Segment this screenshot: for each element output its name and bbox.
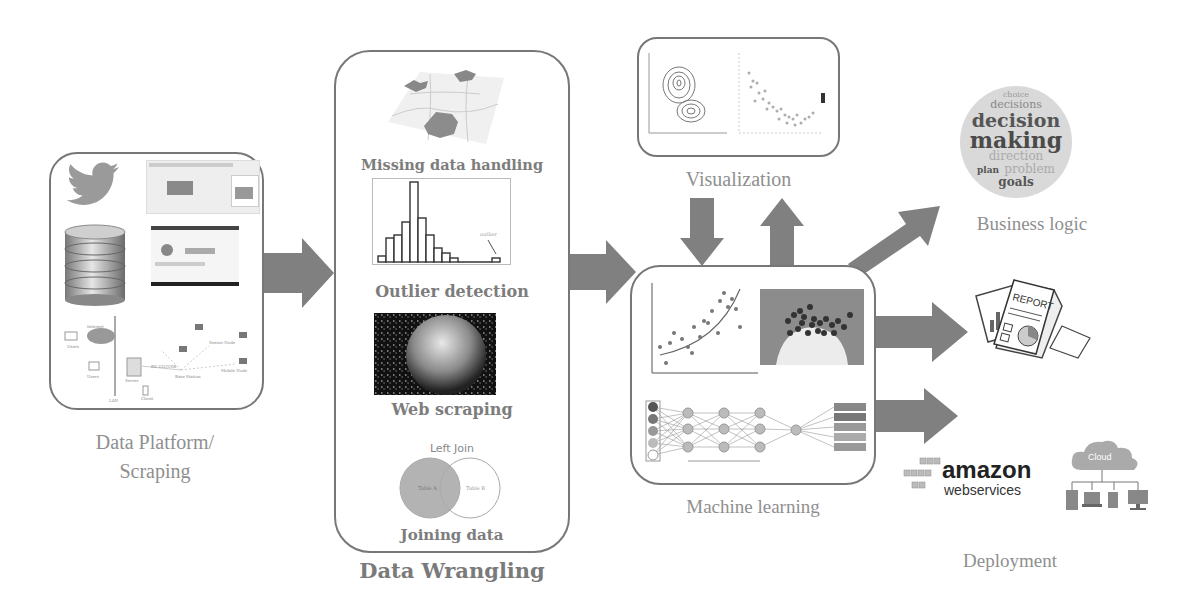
left-join-venn-diagram: Table A Table B xyxy=(396,456,508,522)
arrow-ml-to-viz xyxy=(760,198,804,266)
report-documents-icon: REPORT xyxy=(970,276,1098,360)
visualization-label: Visualization xyxy=(637,168,840,191)
arrow-wrangling-to-ml xyxy=(570,240,636,304)
report-screenshot xyxy=(151,226,239,286)
histogram-outlier-chart: outlier xyxy=(372,178,512,266)
visualization-panel xyxy=(637,37,840,157)
machine-learning-panel xyxy=(630,265,876,485)
contour-plot-chart xyxy=(647,53,727,137)
arrow-ml-to-deployment xyxy=(876,388,958,444)
data-platform-label-line2: Scraping xyxy=(50,457,260,486)
data-wrangling-title: Data Wrangling xyxy=(330,558,574,583)
svg-text:Table B: Table B xyxy=(466,485,485,491)
data-platform-label: Data Platform/ Scraping xyxy=(50,428,260,486)
twitter-bird-icon xyxy=(61,162,121,208)
web-scraping-label: Web scraping xyxy=(336,400,568,419)
outlier-detection-label: Outlier detection xyxy=(336,282,568,301)
svg-text:outlier: outlier xyxy=(480,231,497,237)
web-scraping-globe-image xyxy=(374,313,496,395)
aws-cubes-icon xyxy=(902,456,942,500)
svg-text:Server: Server xyxy=(125,378,139,383)
network-diagram: Users Internet Users LAN Server RS-232/U… xyxy=(59,316,255,402)
joining-data-label: Joining data xyxy=(336,526,568,544)
svg-text:Mobile Node: Mobile Node xyxy=(221,368,248,373)
arrow-ml-to-business-logic xyxy=(848,198,940,278)
data-platform-panel: Users Internet Users LAN Server RS-232/U… xyxy=(49,152,264,410)
left-join-title: Left Join xyxy=(336,442,568,455)
cloud-devices-icon: Cloud xyxy=(1062,436,1152,518)
svg-text:RS-232/USB: RS-232/USB xyxy=(151,364,176,369)
dashboard-screenshot xyxy=(146,160,260,214)
svg-text:Sensor Node: Sensor Node xyxy=(209,340,236,345)
svg-text:Table A: Table A xyxy=(418,485,437,491)
scatter-plot-chart xyxy=(737,53,837,137)
wordcloud-word: plan xyxy=(977,165,999,175)
aws-wordmark: amazon xyxy=(942,458,1031,482)
neural-network-diagram xyxy=(644,399,866,465)
svg-text:Base Station: Base Station xyxy=(175,374,201,379)
business-logic-label: Business logic xyxy=(952,213,1112,235)
regression-scatter-chart xyxy=(648,281,760,377)
classification-scatter-image xyxy=(760,289,864,365)
deployment-label: Deployment xyxy=(930,550,1090,572)
wordcloud-word: problem xyxy=(1004,162,1055,176)
decision-making-wordcloud: choice decisions decision making directi… xyxy=(960,86,1072,198)
data-platform-label-line1: Data Platform/ xyxy=(50,428,260,457)
arrow-viz-to-ml xyxy=(680,198,724,266)
svg-text:Client: Client xyxy=(141,396,154,401)
data-wrangling-panel: Missing data handling outlier Outlier de… xyxy=(334,50,570,553)
svg-text:LAN: LAN xyxy=(109,398,119,402)
wordcloud-word: making xyxy=(960,130,1072,150)
aws-logo: amazon webservices xyxy=(902,452,1038,504)
wordcloud-word: goals xyxy=(960,176,1072,189)
puzzle-missing-piece-icon xyxy=(380,64,510,150)
arrow-ml-to-report xyxy=(876,302,968,362)
machine-learning-label: Machine learning xyxy=(630,496,876,518)
arrow-platform-to-wrangling xyxy=(262,238,334,308)
svg-text:Internet: Internet xyxy=(87,324,104,329)
aws-subtitle: webservices xyxy=(944,482,1021,498)
svg-text:Cloud: Cloud xyxy=(1088,452,1112,462)
svg-text:Users: Users xyxy=(67,344,79,349)
database-icon xyxy=(63,224,127,306)
svg-text:Users: Users xyxy=(87,374,99,379)
missing-data-handling-label: Missing data handling xyxy=(336,156,568,173)
